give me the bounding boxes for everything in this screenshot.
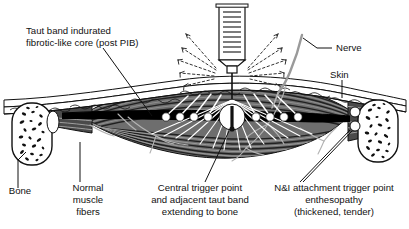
label-nerve: Nerve — [336, 42, 362, 53]
label-attachment-trigger-point: N&I attachment trigger point enthesopath… — [274, 182, 394, 217]
bone-right — [358, 100, 398, 162]
trigger-point-injection-figure: Taut band indurated fibrotic-like core (… — [0, 0, 409, 229]
label-central-tp-line-2: and adjacent taut band — [151, 194, 249, 205]
label-attachment-line-3: (thickened, tender) — [294, 206, 374, 217]
leader-nerve — [303, 38, 317, 48]
label-normal-muscle-line-2: muscle — [73, 194, 103, 205]
label-central-tp-line-3: extending to bone — [162, 206, 238, 217]
label-normal-muscle-line-1: Normal — [73, 182, 104, 193]
bone-left — [12, 103, 59, 165]
label-central-trigger-point: Central trigger point and adjacent taut … — [151, 182, 249, 217]
label-skin: Skin — [330, 69, 349, 80]
label-bone: Bone — [9, 185, 31, 196]
label-taut-band: Taut band indurated fibrotic-like core (… — [26, 25, 139, 48]
label-taut-band-line-1: Taut band indurated — [26, 25, 111, 36]
label-normal-muscle-line-3: fibers — [76, 206, 100, 217]
label-central-tp-line-1: Central trigger point — [158, 182, 243, 193]
label-taut-band-line-2: fibrotic-like core (post PIB) — [26, 37, 139, 48]
label-normal-muscle-fibers: Normal muscle fibers — [73, 182, 104, 217]
label-attachment-line-2: enthesopathy — [305, 194, 363, 205]
label-attachment-line-1: N&I attachment trigger point — [274, 182, 394, 193]
